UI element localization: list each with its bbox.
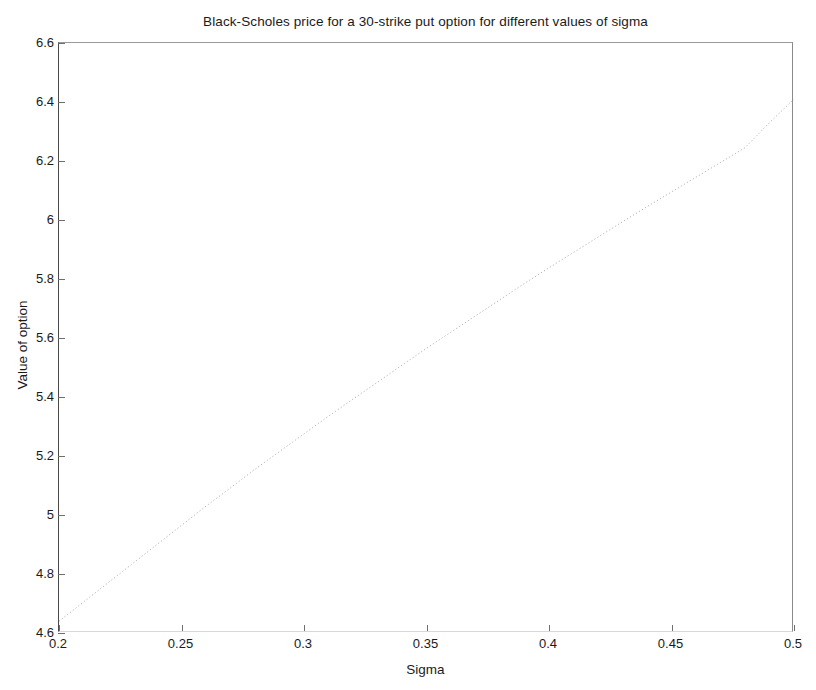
y-tick-mark (58, 220, 65, 221)
y-tick-label: 4.8 (36, 566, 54, 581)
y-tick-mark (58, 338, 65, 339)
x-tick-label: 0.25 (168, 636, 193, 651)
x-tick-label: 0.35 (413, 636, 438, 651)
y-tick-mark (58, 43, 65, 44)
y-tick-mark (58, 279, 65, 280)
x-axis-title: Sigma (58, 662, 793, 678)
plot-area (58, 42, 793, 632)
data-series-line (59, 99, 794, 621)
y-tick-label: 6.2 (36, 153, 54, 168)
x-tick-mark (549, 625, 550, 631)
y-tick-label: 5 (47, 507, 54, 522)
y-tick-mark (58, 515, 65, 516)
x-tick-mark (182, 625, 183, 631)
y-tick-mark (58, 456, 65, 457)
x-tick-mark (427, 625, 428, 631)
x-tick-mark (59, 625, 60, 631)
x-tick-label: 0.5 (784, 636, 802, 651)
x-tick-mark (304, 625, 305, 631)
y-tick-label: 4.6 (36, 625, 54, 640)
x-tick-label: 0.3 (294, 636, 312, 651)
x-tick-label: 0.4 (539, 636, 557, 651)
chart-title: Black-Scholes price for a 30-strike put … (58, 14, 793, 30)
y-tick-mark (58, 102, 65, 103)
y-tick-mark (58, 161, 65, 162)
x-tick-label: 0.45 (658, 636, 683, 651)
x-tick-mark (794, 625, 795, 631)
y-tick-mark (58, 574, 65, 575)
y-tick-mark (58, 397, 65, 398)
y-tick-label: 6 (47, 212, 54, 227)
y-tick-label: 6.6 (36, 35, 54, 50)
y-axis-title: Value of option (15, 245, 31, 445)
data-line-svg (59, 43, 794, 633)
x-tick-mark (672, 625, 673, 631)
y-tick-label: 5.6 (36, 330, 54, 345)
y-tick-label: 5.4 (36, 389, 54, 404)
figure-canvas: Black-Scholes price for a 30-strike put … (0, 0, 816, 690)
y-tick-mark (58, 633, 65, 634)
y-tick-label: 5.2 (36, 448, 54, 463)
y-tick-label: 5.8 (36, 271, 54, 286)
y-tick-label: 6.4 (36, 94, 54, 109)
